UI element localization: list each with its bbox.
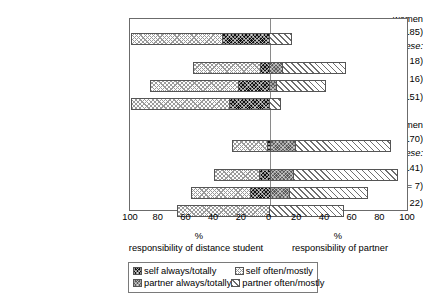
segment-partner-often	[295, 141, 391, 151]
bar-row	[232, 140, 391, 152]
x-axis-tick-label: 80	[374, 212, 384, 222]
segment-self-always	[260, 63, 270, 73]
bar-row	[131, 33, 292, 45]
segment-self-always	[250, 188, 269, 198]
segment-self-often	[132, 34, 222, 44]
x-axis-tick-label: 20	[236, 212, 246, 222]
segment-self-often	[192, 188, 251, 198]
x-axis-tick-label: 40	[319, 212, 329, 222]
caption-left: responsibility of distance student	[129, 243, 263, 253]
segment-partner-always	[269, 63, 281, 73]
x-axis-tick-label: 100	[399, 212, 415, 222]
legend: self always/totally self often/mostly pa…	[128, 262, 318, 293]
segment-partner-often	[276, 81, 325, 91]
legend-swatch-self-always-icon	[133, 267, 142, 275]
x-axis-tick-label: 40	[208, 212, 218, 222]
segment-partner-always	[270, 141, 295, 151]
bar-row	[150, 80, 326, 92]
caption-right: responsibility of partner	[292, 243, 388, 253]
segment-partner-often	[269, 99, 280, 109]
legend-label-self-always: self always/totally	[144, 266, 216, 276]
legend-label-partner-always: partner always/totally	[144, 278, 231, 288]
bar-row	[214, 169, 398, 181]
legend-row-2: partner always/totally partner often/mos…	[133, 277, 313, 289]
plot-area	[129, 18, 408, 211]
legend-item-partner-often: partner often/mostly	[231, 278, 324, 288]
x-axis-tick-label: 0	[266, 212, 271, 222]
segment-self-often	[132, 99, 229, 109]
legend-swatch-partner-often-icon	[231, 279, 240, 287]
segment-partner-often	[269, 34, 291, 44]
segment-self-often	[215, 170, 259, 180]
bar-row	[193, 62, 345, 74]
x-axis-tick-label: 60	[180, 212, 190, 222]
legend-label-partner-often: partner often/mostly	[242, 278, 324, 288]
x-axis-tick-label: 60	[346, 212, 356, 222]
bar-row	[131, 98, 281, 110]
segment-self-often	[194, 63, 260, 73]
segment-self-often	[233, 141, 267, 151]
segment-partner-always	[269, 81, 276, 91]
legend-item-partner-always: partner always/totally	[133, 278, 231, 288]
bar-row	[191, 187, 368, 199]
legend-item-self-often: self often/mostly	[235, 266, 313, 276]
segment-self-always	[238, 81, 269, 91]
percent-label-right: %	[334, 231, 342, 241]
segment-partner-often	[282, 63, 345, 73]
segment-self-always	[259, 170, 270, 180]
legend-swatch-self-often-icon	[235, 267, 244, 275]
x-axis-tick-label: 100	[122, 212, 138, 222]
zero-axis-line	[270, 19, 271, 210]
percent-label-left: %	[195, 231, 203, 241]
legend-swatch-partner-always-icon	[133, 279, 142, 287]
segment-partner-often	[293, 170, 397, 180]
x-axis-tick-label: 20	[291, 212, 301, 222]
segment-partner-often	[289, 188, 367, 198]
x-axis-tick-label: 80	[153, 212, 163, 222]
segment-self-often	[151, 81, 237, 91]
legend-label-self-often: self often/mostly	[246, 266, 313, 276]
legend-item-self-always: self always/totally	[133, 266, 235, 276]
legend-row-1: self always/totally self often/mostly	[133, 265, 313, 277]
x-axis: 10080604020020406080100	[129, 212, 408, 226]
segment-self-always	[229, 99, 269, 109]
segment-partner-always	[270, 188, 289, 198]
segment-self-always	[222, 34, 269, 44]
chart-root: women all family women (n = 185) of thes…	[0, 0, 423, 305]
segment-partner-always	[270, 170, 293, 180]
